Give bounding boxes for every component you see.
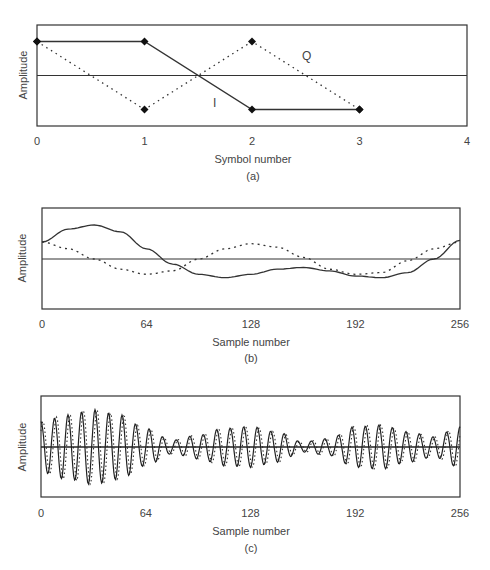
x-tick-label: 0 bbox=[39, 318, 45, 330]
diamond-marker bbox=[248, 106, 256, 114]
y-axis-label: Amplitude bbox=[16, 234, 28, 283]
panel-label: (b) bbox=[244, 352, 257, 364]
diamond-marker bbox=[33, 38, 41, 46]
x-tick-label: 128 bbox=[241, 507, 259, 519]
x-tick-label: 2 bbox=[249, 135, 255, 147]
panel-b: Amplitude 064128192256 Sample number (b) bbox=[16, 208, 469, 364]
x-tick-labels: 01234 bbox=[34, 135, 470, 147]
panel-c: Amplitude 064128192256 Sample number (c) bbox=[16, 396, 469, 554]
x-tick-label: 192 bbox=[346, 507, 364, 519]
diamond-marker bbox=[141, 38, 149, 46]
x-tick-label: 64 bbox=[140, 507, 152, 519]
i-series-line bbox=[42, 225, 460, 278]
x-tick-label: 1 bbox=[141, 135, 147, 147]
diamond-marker bbox=[356, 106, 364, 114]
x-axis-label: Sample number bbox=[212, 336, 290, 348]
x-axis-label: Symbol number bbox=[214, 153, 291, 165]
panel-a: Q I Amplitude 01234 Symbol number (a) bbox=[17, 25, 470, 182]
y-axis-label: Amplitude bbox=[16, 423, 28, 472]
annotation-q: Q bbox=[302, 49, 311, 63]
annotation-i: I bbox=[213, 96, 216, 110]
x-tick-label: 4 bbox=[464, 135, 470, 147]
x-tick-labels: 064128192256 bbox=[39, 318, 469, 330]
x-axis-label: Sample number bbox=[212, 525, 290, 537]
y-axis-label: Amplitude bbox=[17, 51, 29, 100]
x-tick-label: 128 bbox=[242, 318, 260, 330]
panel-label: (c) bbox=[245, 542, 258, 554]
x-tick-labels: 064128192256 bbox=[38, 507, 469, 519]
panel-label: (a) bbox=[246, 170, 259, 182]
figure: Q I Amplitude 01234 Symbol number (a) Am… bbox=[0, 0, 490, 570]
diamond-marker bbox=[248, 38, 256, 46]
x-tick-label: 64 bbox=[140, 318, 152, 330]
x-tick-label: 256 bbox=[451, 507, 469, 519]
q-series-line bbox=[42, 242, 460, 274]
x-tick-label: 192 bbox=[346, 318, 364, 330]
x-tick-label: 0 bbox=[34, 135, 40, 147]
x-tick-label: 3 bbox=[356, 135, 362, 147]
x-tick-label: 256 bbox=[451, 318, 469, 330]
x-tick-label: 0 bbox=[38, 507, 44, 519]
diamond-marker bbox=[141, 106, 149, 114]
